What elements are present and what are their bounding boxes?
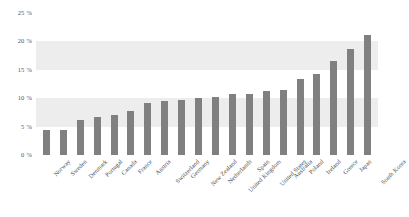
x-axis-tick-label: Japan: [360, 157, 375, 172]
bar: [111, 115, 118, 155]
bar-slot: [207, 13, 224, 155]
bar: [161, 101, 168, 155]
bar: [60, 130, 67, 155]
bar: [313, 74, 320, 155]
bar-series: [36, 13, 378, 155]
bar-slot: [325, 13, 342, 155]
x-axis-tick-label: France: [138, 157, 155, 174]
bar-slot: [359, 13, 376, 155]
bar-slot: [106, 13, 123, 155]
y-axis-tick-label: 15 %: [18, 67, 32, 74]
bar: [144, 103, 151, 155]
x-axis-tick-label: Ireland: [326, 157, 343, 174]
bar: [212, 97, 219, 155]
x-axis-tick-label: South Korea: [382, 157, 409, 184]
bar: [280, 90, 287, 155]
bar-slot: [89, 13, 106, 155]
bar-slot: [241, 13, 258, 155]
bar: [364, 35, 371, 155]
bar: [77, 120, 84, 155]
x-axis: NorwaySwedenDenmarkPortugalCanadaFranceA…: [36, 155, 378, 217]
bar-slot: [309, 13, 326, 155]
bar: [43, 130, 50, 155]
bar: [297, 79, 304, 155]
bar-slot: [190, 13, 207, 155]
bar-slot: [55, 13, 72, 155]
bar-slot: [258, 13, 275, 155]
bar: [263, 91, 270, 155]
bar-slot: [139, 13, 156, 155]
plot-area: [36, 13, 378, 155]
bar-slot: [38, 13, 55, 155]
bar: [178, 100, 185, 155]
bar: [246, 94, 253, 155]
y-axis-tick-label: 5 %: [21, 124, 32, 131]
y-axis-tick-label: 0 %: [21, 152, 32, 159]
x-axis-tick-label: Austria: [156, 157, 174, 175]
y-axis: 0 %5 %10 %15 %20 %25 %: [0, 0, 36, 217]
bar: [94, 117, 101, 155]
bar: [229, 94, 236, 155]
bar: [347, 49, 354, 155]
bar: [127, 111, 134, 155]
bar-slot: [275, 13, 292, 155]
bar: [195, 98, 202, 155]
bar-slot: [342, 13, 359, 155]
x-axis-tick-label: Sweden: [71, 157, 90, 176]
y-axis-tick-label: 25 %: [18, 10, 32, 17]
bar-slot: [156, 13, 173, 155]
bar-slot: [224, 13, 241, 155]
bar-slot: [123, 13, 140, 155]
y-axis-tick-label: 10 %: [18, 95, 32, 102]
bar-slot: [72, 13, 89, 155]
bar-slot: [292, 13, 309, 155]
y-axis-tick-label: 20 %: [18, 38, 32, 45]
bar: [330, 61, 337, 155]
bar-slot: [173, 13, 190, 155]
